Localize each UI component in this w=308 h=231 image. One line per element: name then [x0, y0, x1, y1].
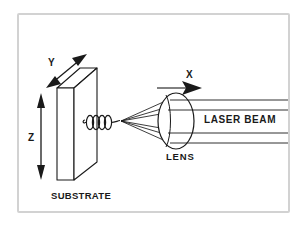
- substrate-label: SUBSTRATE: [51, 191, 111, 201]
- laser-beam-label: LASER BEAM: [204, 115, 276, 125]
- substrate-shape: [57, 68, 97, 180]
- lens-shape: [158, 93, 194, 149]
- z-axis-label: Z: [28, 133, 34, 143]
- z-axis-arrowhead-up: [37, 93, 45, 108]
- figure-page: X Y Z LASER BEAM LENS SUBSTRATE: [0, 0, 308, 231]
- y-axis-label: Y: [48, 58, 55, 68]
- substrate-side-face: [57, 88, 74, 180]
- z-axis-arrowhead-down: [37, 165, 45, 180]
- lens-label: LENS: [166, 152, 195, 162]
- x-axis-label: X: [186, 70, 193, 80]
- z-axis-arrow: [37, 93, 45, 180]
- lens-body: [158, 93, 194, 149]
